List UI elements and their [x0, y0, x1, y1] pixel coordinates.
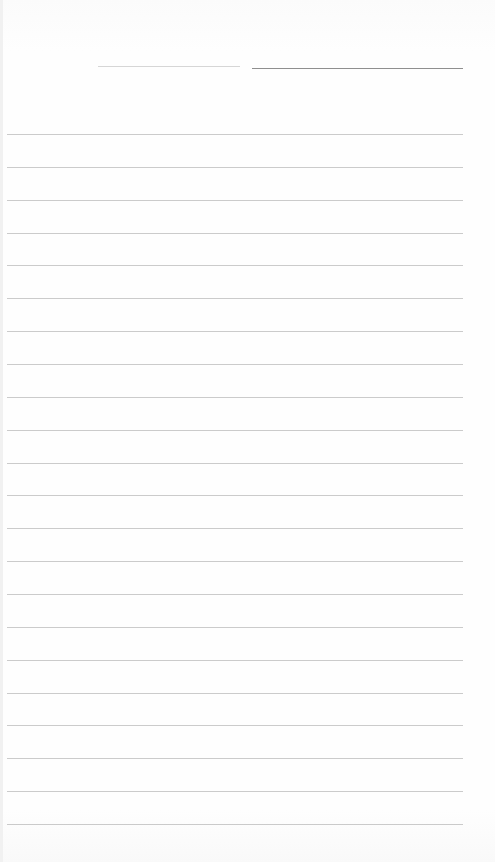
ruled-line [7, 134, 463, 135]
ruled-line [7, 364, 463, 365]
ruled-line [7, 265, 463, 266]
ruled-line [7, 495, 463, 496]
ruled-line [7, 627, 463, 628]
ruled-line [7, 331, 463, 332]
ruled-line [7, 528, 463, 529]
ruled-line [7, 791, 463, 792]
page-edge-shadow [0, 0, 3, 862]
ruled-line [7, 463, 463, 464]
ruled-line [7, 430, 463, 431]
ruled-line [7, 298, 463, 299]
ruled-line [7, 397, 463, 398]
faint-mark [98, 66, 240, 67]
ruled-line [7, 693, 463, 694]
ruled-line [7, 758, 463, 759]
ruled-line [7, 660, 463, 661]
lined-paper-page [0, 0, 495, 862]
ruled-line [7, 200, 463, 201]
ruled-line [7, 167, 463, 168]
ruled-line [7, 233, 463, 234]
ruled-line [7, 594, 463, 595]
ruled-line [7, 561, 463, 562]
header-line [252, 68, 463, 69]
ruled-line [7, 725, 463, 726]
ruled-line [7, 824, 463, 825]
